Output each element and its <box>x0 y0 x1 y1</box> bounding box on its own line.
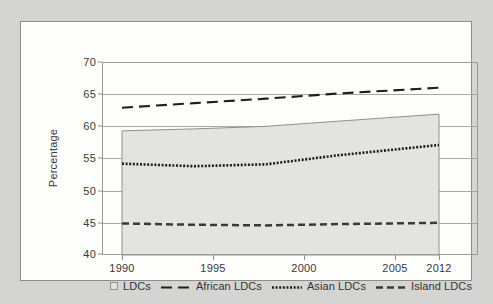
x-tick-label-2000: 2000 <box>291 262 316 274</box>
legend-item-island-ldcs[interactable]: Island LDCs <box>376 280 472 292</box>
x-tick-mark-2005 <box>395 255 396 260</box>
legend-item-african-ldcs[interactable]: African LDCs <box>161 280 262 292</box>
shaded-box-swatch-icon <box>110 282 118 290</box>
legend-label-african-ldcs: African LDCs <box>196 280 262 292</box>
x-tick-mark-2012 <box>439 255 440 260</box>
x-tick-mark-1990 <box>122 255 123 260</box>
chart-figure: Percentage 70 65 60 55 50 45 40 <box>0 0 493 304</box>
series-ldcs-band <box>122 114 439 255</box>
legend-item-asian-ldcs[interactable]: Asian LDCs <box>272 280 366 292</box>
y-tick-label-50: 50 <box>83 185 96 197</box>
long-dash-line-swatch-icon <box>161 282 191 291</box>
y-tick-label-60: 60 <box>83 120 96 132</box>
x-tick-mark-2000 <box>304 255 305 260</box>
series-african-ldcs-line <box>122 88 439 108</box>
y-axis-title: Percentage <box>47 129 59 187</box>
y-tick-label-45: 45 <box>83 217 96 229</box>
y-tick-label-70: 70 <box>83 56 96 68</box>
chart-legend: LDCs African LDCs Asian LDCs <box>102 278 478 294</box>
x-tick-label-2005: 2005 <box>382 262 407 274</box>
legend-label-ldcs: LDCs <box>123 280 151 292</box>
figure-panel: Percentage 70 65 60 55 50 45 40 <box>20 21 472 281</box>
y-tick-label-65: 65 <box>83 88 96 100</box>
y-tick-label-55: 55 <box>83 152 96 164</box>
plot-area: 70 65 60 55 50 45 40 1990 1995 2000 2005… <box>102 62 478 255</box>
legend-item-ldcs[interactable]: LDCs <box>110 280 151 292</box>
dash-dot-line-swatch-icon <box>376 282 406 291</box>
legend-label-island-ldcs: Island LDCs <box>411 280 472 292</box>
dotted-line-swatch-icon <box>272 282 302 291</box>
legend-label-asian-ldcs: Asian LDCs <box>307 280 366 292</box>
x-tick-label-1990: 1990 <box>109 262 134 274</box>
x-tick-label-2012: 2012 <box>426 262 451 274</box>
series-canvas <box>102 62 478 255</box>
x-tick-mark-1995 <box>213 255 214 260</box>
y-tick-label-40: 40 <box>83 248 96 260</box>
x-tick-label-1995: 1995 <box>200 262 225 274</box>
